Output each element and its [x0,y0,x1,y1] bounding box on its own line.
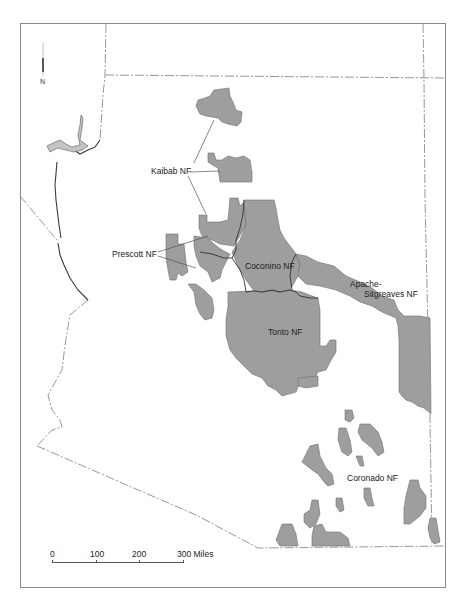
forest-kaibab [196,88,252,246]
label-coronado-nf: Coronado NF [347,474,398,483]
forest-tonto [226,290,336,396]
scale-tick-100 [96,560,97,563]
label-tonto-nf: Tonto NF [268,328,303,337]
label-apache-line2: Sitgreaves NF [364,290,418,299]
utah-arizona-northern-border [105,75,446,78]
scale-label-100: 100 [90,550,104,559]
scale-bar-line [52,562,184,563]
scale-label-200: 200 [132,550,146,559]
map-canvas [0,0,466,603]
nevada-utah-border [100,24,106,140]
label-coconino-nf: Coconino NF [245,262,295,271]
california-border [37,300,88,446]
north-label: N [40,78,45,85]
label-apache-line1: Apache- [350,280,382,289]
scale-tick-300 [183,560,184,563]
forest-prescott [166,234,230,320]
lake-mead [47,115,88,152]
nevada-diagonal-border [20,196,57,240]
label-prescott-nf: Prescott NF [112,250,157,259]
colorado-river [47,115,100,300]
scale-tick-0 [52,560,53,563]
scale-label-300-miles: 300 Miles [177,550,213,559]
label-kaibab-nf: Kaibab NF [151,167,191,176]
mexico-border [37,446,446,548]
scale-label-0: 0 [50,550,55,559]
new-mexico-border [423,24,432,545]
scale-tick-200 [139,560,140,563]
